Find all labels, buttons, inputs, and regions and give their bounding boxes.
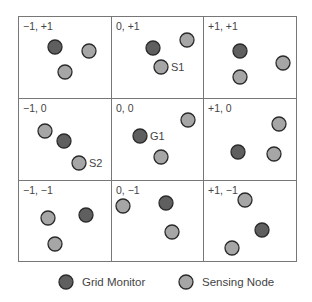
grid-cell: −1, −1 — [23, 184, 93, 251]
grid-cells: −1, +10, +1S1+1, +1−1, 0S20, 0G1+1, 0−1,… — [23, 20, 290, 255]
grid-monitor-node-icon — [255, 223, 269, 237]
grid-monitor-node-icon — [79, 208, 93, 222]
sensing-node-icon — [116, 199, 130, 213]
sensing-node-icon — [154, 60, 168, 74]
grid-cell: −1, 0S2 — [23, 102, 102, 170]
legend-label: Grid Monitor — [82, 276, 145, 288]
cell-coordinate-label: 0, 0 — [116, 102, 134, 114]
grid-monitor-node-icon — [159, 196, 173, 210]
grid-cell: +1, −1 — [208, 184, 269, 255]
sensing-node-icon — [48, 237, 62, 251]
cell-coordinate-label: 0, +1 — [116, 20, 140, 32]
sensing-node-icon — [272, 117, 286, 131]
grid-cell: −1, +1 — [23, 20, 96, 79]
grid-diagram: −1, +10, +1S1+1, +1−1, 0S20, 0G1+1, 0−1,… — [0, 0, 312, 302]
sensing-node-icon — [181, 113, 195, 127]
grid-cell: 0, 0G1 — [116, 102, 195, 164]
grid-monitor-node-icon — [57, 134, 71, 148]
node-label: S1 — [171, 61, 184, 73]
sensing-node-icon — [276, 56, 290, 70]
cell-coordinate-label: −1, 0 — [23, 102, 47, 114]
legend: Grid MonitorSensing Node — [59, 275, 274, 289]
cell-coordinate-label: +1, 0 — [208, 102, 232, 114]
grid-cell: +1, +1 — [208, 20, 290, 84]
sensing-node-icon — [225, 241, 239, 255]
grid-monitor-legend-icon — [59, 275, 73, 289]
sensing-node-icon — [165, 225, 179, 239]
sensing-node-icon — [180, 33, 194, 47]
grid-monitor-node-icon — [146, 41, 160, 55]
sensing-node-icon — [82, 44, 96, 58]
cell-coordinate-label: −1, −1 — [23, 184, 53, 196]
cell-coordinate-label: −1, +1 — [23, 20, 53, 32]
sensing-node-icon — [58, 65, 72, 79]
sensing-node-icon — [238, 193, 252, 207]
node-label: S2 — [89, 157, 102, 169]
cell-coordinate-label: +1, −1 — [208, 184, 238, 196]
grid-cell: 0, +1S1 — [116, 20, 194, 74]
grid-monitor-node-icon — [233, 44, 247, 58]
grid-cell: +1, 0 — [208, 102, 286, 161]
legend-item-grid-monitor: Grid Monitor — [59, 275, 145, 289]
cell-coordinate-label: +1, +1 — [208, 20, 238, 32]
grid-cell: 0, −1 — [116, 184, 179, 239]
sensing-node-icon — [41, 211, 55, 225]
legend-label: Sensing Node — [202, 276, 274, 288]
sensing-node-icon — [72, 156, 86, 170]
sensing-node-icon — [233, 70, 247, 84]
grid-monitor-node-icon — [48, 40, 62, 54]
cell-coordinate-label: 0, −1 — [116, 184, 140, 196]
grid-monitor-node-icon — [133, 129, 147, 143]
sensing-node-legend-icon — [179, 275, 193, 289]
node-label: G1 — [150, 130, 165, 142]
sensing-node-icon — [38, 124, 52, 138]
legend-item-sensing-node: Sensing Node — [179, 275, 274, 289]
grid-monitor-node-icon — [231, 145, 245, 159]
sensing-node-icon — [154, 150, 168, 164]
sensing-node-icon — [267, 147, 281, 161]
